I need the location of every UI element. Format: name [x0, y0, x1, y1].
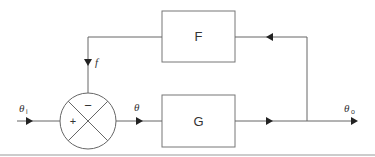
arrow-f-down-icon	[84, 59, 92, 66]
arrow-input-icon	[26, 117, 33, 125]
feedback-signal-label: f	[95, 56, 100, 68]
svg-text:o: o	[351, 108, 355, 115]
arrow-error-icon	[136, 117, 143, 125]
block-g-label: G	[193, 114, 203, 129]
input-signal-label: θ i	[19, 102, 28, 115]
arrow-feedback-icon	[266, 33, 273, 41]
minus-sign: −	[84, 98, 92, 113]
arrow-output-icon	[351, 117, 358, 125]
block-f-label: F	[195, 29, 203, 44]
output-signal-label: θ o	[344, 102, 355, 115]
error-signal-label: θ	[134, 101, 140, 113]
block-diagram: F G − + f θ i θ θ o	[0, 0, 375, 157]
svg-text:θ: θ	[19, 102, 25, 114]
plus-sign: +	[70, 115, 76, 127]
svg-text:i: i	[26, 108, 28, 115]
arrow-g-out-icon	[266, 117, 273, 125]
svg-text:θ: θ	[344, 102, 350, 114]
